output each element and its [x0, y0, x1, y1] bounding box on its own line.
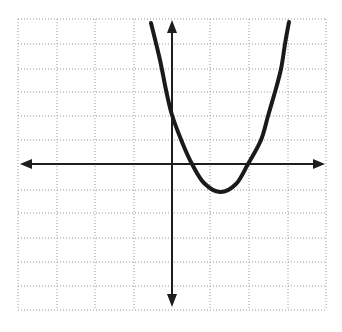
x-axis-right-arrow-icon: [313, 159, 325, 169]
coordinate-graph: [0, 0, 342, 332]
x-axis-left-arrow-icon: [20, 159, 32, 169]
y-axis-up-arrow-icon: [167, 20, 177, 33]
y-axis-down-arrow-icon: [167, 294, 177, 307]
